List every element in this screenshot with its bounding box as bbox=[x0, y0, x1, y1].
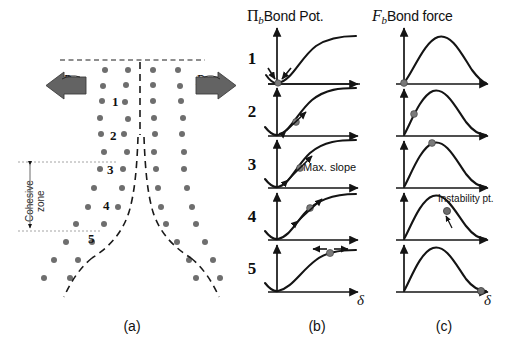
row-number-3: 3 bbox=[244, 155, 260, 175]
bond-potential-plot-2 bbox=[265, 88, 358, 136]
atom-dot bbox=[217, 275, 223, 281]
figure-root: ΠbBond Pot. FbBond force 1 2 3 4 5 P P C… bbox=[0, 0, 507, 350]
instability-annotation-line1: Instability bbox=[438, 193, 480, 204]
atom-dot bbox=[99, 98, 105, 104]
atom-dot bbox=[186, 257, 192, 263]
atom-dot bbox=[181, 166, 187, 172]
state-marker-5 bbox=[326, 249, 333, 256]
atom-dot bbox=[189, 204, 195, 210]
atom-dot bbox=[97, 166, 103, 172]
bond-force-plot-5 bbox=[396, 245, 488, 295]
atom-dot bbox=[184, 185, 190, 191]
atom-dot bbox=[120, 166, 126, 172]
atom-dot bbox=[193, 275, 199, 281]
row-number-4: 4 bbox=[244, 207, 260, 227]
crack-opening-right-face bbox=[144, 137, 191, 258]
lattice-label-4: 4 bbox=[103, 198, 110, 214]
state-marker-1 bbox=[275, 80, 281, 86]
atom-dot bbox=[73, 221, 79, 227]
load-label-left: P bbox=[63, 73, 72, 89]
panel-caption-b: (b) bbox=[297, 318, 337, 334]
state-marker-2 bbox=[293, 119, 300, 126]
atom-dot bbox=[63, 239, 69, 245]
atom-dot bbox=[125, 67, 131, 73]
force-marker-3 bbox=[429, 140, 436, 147]
atom-dot bbox=[51, 257, 57, 263]
atom-dot bbox=[163, 221, 169, 227]
atom-dot bbox=[181, 149, 187, 155]
atom-dot bbox=[151, 115, 157, 121]
atom-dot bbox=[180, 115, 186, 121]
delta-label-column-c: δ bbox=[484, 292, 491, 309]
bond-force-text: Bond force bbox=[387, 8, 453, 24]
atom-dot bbox=[101, 149, 107, 155]
atom-dot bbox=[150, 67, 156, 73]
lattice-label-5: 5 bbox=[88, 231, 95, 247]
atom-dot bbox=[174, 239, 180, 245]
cohesive-zone-line2: zone bbox=[35, 190, 46, 212]
bond-potential-symbol: Π bbox=[247, 7, 258, 24]
atom-dot bbox=[119, 185, 125, 191]
load-label-right: P bbox=[196, 73, 205, 89]
atom-dot bbox=[122, 99, 128, 105]
bond-force-plot-2 bbox=[396, 89, 488, 136]
atom-dot bbox=[158, 204, 164, 210]
instability-annotation: Instability pt. bbox=[438, 194, 500, 204]
lattice-label-2: 2 bbox=[110, 128, 117, 144]
atom-dot bbox=[155, 185, 161, 191]
panel-caption-c: (c) bbox=[424, 318, 464, 334]
atom-dot bbox=[150, 82, 156, 88]
atom-dot bbox=[175, 67, 181, 73]
load-arrow-accent-right bbox=[204, 76, 220, 79]
atom-dot bbox=[125, 116, 131, 122]
atom-dot bbox=[115, 204, 121, 210]
row-number-2: 2 bbox=[244, 102, 260, 122]
atom-dot bbox=[98, 131, 104, 137]
row-number-1: 1 bbox=[244, 49, 260, 69]
atom-dot bbox=[151, 149, 157, 155]
atom-dot bbox=[101, 221, 107, 227]
delta-label-column-b: δ bbox=[357, 292, 364, 309]
atom-dot bbox=[121, 131, 127, 137]
bond-force-plot-3 bbox=[396, 140, 488, 188]
bond-potential-text: Bond Pot. bbox=[264, 8, 324, 24]
force-marker-1 bbox=[401, 80, 408, 87]
lattice-label-3: 3 bbox=[107, 162, 114, 178]
atom-dot bbox=[91, 185, 97, 191]
atom-dot bbox=[179, 131, 185, 137]
atom-dot bbox=[75, 257, 81, 263]
bond-force-header: FbBond force bbox=[372, 7, 453, 26]
atom-dot bbox=[41, 275, 47, 281]
atom-dot bbox=[150, 98, 156, 104]
atom-dot bbox=[210, 257, 216, 263]
atom-dot bbox=[178, 98, 184, 104]
atom-dot bbox=[153, 166, 159, 172]
crack-opening-left-face bbox=[92, 137, 138, 258]
bond-potential-plot-5 bbox=[265, 245, 358, 292]
atom-dot bbox=[67, 275, 73, 281]
atom-dot bbox=[193, 221, 199, 227]
atom-dot bbox=[124, 149, 130, 155]
atom-dot bbox=[85, 204, 91, 210]
cohesive-zone-label: Cohesive zone bbox=[25, 180, 46, 222]
atom-dot bbox=[177, 83, 183, 89]
bond-potential-header: ΠbBond Pot. bbox=[247, 7, 323, 26]
atom-dot bbox=[123, 82, 129, 88]
max-slope-annotation: Max. slope bbox=[303, 161, 356, 173]
instability-annotation-line2: pt. bbox=[482, 193, 493, 204]
bond-force-plot-1 bbox=[396, 28, 488, 86]
bond-potential-plot-1 bbox=[266, 28, 360, 86]
atom-dot bbox=[152, 131, 158, 137]
bond-force-symbol: F bbox=[372, 7, 382, 24]
atom-dot bbox=[100, 83, 106, 89]
instability-leader-line bbox=[446, 216, 452, 228]
force-marker-2 bbox=[411, 111, 418, 118]
atom-dot bbox=[102, 67, 108, 73]
atom-dot bbox=[202, 239, 208, 245]
instability-point-marker bbox=[443, 207, 450, 214]
state-marker-4 bbox=[307, 205, 314, 212]
row-number-5: 5 bbox=[244, 259, 260, 279]
lattice-label-1: 1 bbox=[112, 94, 119, 110]
cohesive-zone-line1: Cohesive bbox=[24, 180, 35, 222]
panel-caption-a: (a) bbox=[112, 318, 152, 334]
